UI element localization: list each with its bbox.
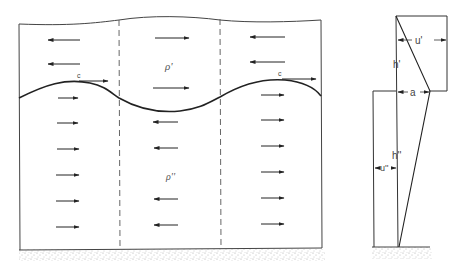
column-1-arrows	[48, 40, 108, 227]
upper-density-label: ρ'	[164, 60, 173, 72]
upper-layer-box	[396, 16, 447, 91]
wave-speed-label-1: c	[77, 72, 81, 79]
diagram-canvas: c ρ' ρ'' c	[0, 0, 464, 275]
left-wall	[19, 24, 20, 250]
amplitude-label: a	[410, 87, 416, 98]
profile-ground-hatch	[372, 247, 432, 259]
velocity-profile-line	[396, 16, 430, 247]
lower-depth-label: h''	[392, 150, 401, 161]
upper-velocity-label: u'	[415, 35, 423, 46]
ground-hatch	[19, 249, 325, 261]
wave-speed-label-2: c	[278, 70, 282, 77]
flow-panel: c ρ' ρ'' c	[19, 17, 325, 261]
velocity-profile-panel: u' h' a h'' u''	[372, 16, 447, 259]
upper-depth-label: h'	[393, 59, 401, 70]
depth-axis	[396, 16, 398, 247]
free-surface	[19, 17, 321, 25]
column-divider-1	[119, 20, 120, 249]
column-divider-2	[220, 19, 221, 248]
lower-velocity-label: u''	[380, 163, 389, 173]
interface-wave	[19, 80, 321, 112]
column-3-arrows	[250, 37, 316, 224]
right-wall	[321, 20, 322, 248]
lower-density-label: ρ''	[165, 171, 176, 182]
